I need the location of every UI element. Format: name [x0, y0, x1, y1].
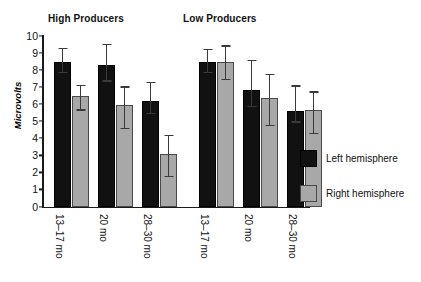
legend: Left hemisphereRight hemisphere — [300, 150, 404, 220]
error-bar-cap-upper — [76, 85, 85, 86]
error-bar-cap-upper — [146, 82, 155, 83]
y-tick-label: 6 — [32, 99, 38, 110]
y-tick-mark — [39, 189, 43, 190]
y-tick-mark — [39, 87, 43, 88]
x-tick-label: 28–30 mo — [142, 214, 153, 258]
error-bar-cap-lower — [247, 106, 256, 107]
error-bar-cap-lower — [102, 80, 111, 81]
plot-area: 012345678910 — [42, 35, 310, 208]
error-bar-cap-lower — [120, 128, 129, 129]
error-bar-line — [124, 86, 125, 128]
bar-left-hemisphere — [243, 90, 260, 207]
y-tick-label: 8 — [32, 65, 38, 76]
y-tick-label: 1 — [32, 184, 38, 195]
y-tick-mark — [39, 121, 43, 122]
error-bar-line — [251, 60, 252, 106]
error-bar-cap-lower — [146, 113, 155, 114]
error-bar-cap-lower — [203, 72, 212, 73]
error-bar-cap-upper — [309, 91, 318, 92]
y-tick-label: 4 — [32, 133, 38, 144]
x-tick-label: 20 mo — [98, 214, 109, 242]
x-tick-label: 13–17 mo — [199, 214, 210, 258]
y-tick-mark — [39, 155, 43, 156]
error-bar-line — [150, 82, 151, 113]
error-bar-line — [207, 49, 208, 72]
error-bar-line — [80, 85, 81, 110]
x-axis-line — [42, 207, 310, 209]
error-bar-cap-lower — [309, 133, 318, 134]
y-tick-mark — [39, 206, 43, 207]
y-tick-label: 7 — [32, 82, 38, 93]
error-bar-line — [106, 44, 107, 81]
y-tick-mark — [39, 138, 43, 139]
error-bar-line — [295, 85, 296, 121]
bar-left-hemisphere — [142, 101, 159, 207]
error-bar-cap-lower — [58, 72, 67, 73]
bar-right-hemisphere — [72, 96, 89, 207]
bar-left-hemisphere — [54, 62, 71, 207]
error-bar-line — [269, 74, 270, 125]
y-tick-label: 2 — [32, 167, 38, 178]
bar-right-hemisphere — [217, 62, 234, 207]
y-axis-label: Microvolts — [12, 71, 23, 141]
error-bar-cap-upper — [265, 74, 274, 75]
y-tick-label: 3 — [32, 150, 38, 161]
error-bar-cap-lower — [164, 176, 173, 177]
error-bar-cap-lower — [265, 125, 274, 126]
error-bar-cap-upper — [102, 44, 111, 45]
error-bar-cap-lower — [291, 121, 300, 122]
x-tick-label: 13–17 mo — [54, 214, 65, 258]
error-bar-line — [168, 135, 169, 176]
legend-item[interactable]: Right hemisphere — [300, 185, 404, 202]
y-tick-label: 0 — [32, 201, 38, 212]
error-bar-cap-upper — [164, 135, 173, 136]
error-bar-cap-upper — [247, 60, 256, 61]
error-bar-line — [313, 91, 314, 133]
y-tick-mark — [39, 35, 43, 36]
error-bar-cap-upper — [291, 85, 300, 86]
error-bar-line — [225, 45, 226, 78]
x-tick-label: 28–30 mo — [287, 214, 298, 258]
y-axis-line — [42, 35, 44, 208]
chart-root: High Producers Low Producers Microvolts … — [0, 0, 421, 282]
y-tick-mark — [39, 104, 43, 105]
x-tick-label: 20 mo — [243, 214, 254, 242]
error-bar-cap-upper — [58, 48, 67, 49]
group-title-high-producers: High Producers — [48, 13, 124, 24]
y-tick-label: 5 — [32, 116, 38, 127]
legend-label: Left hemisphere — [326, 153, 398, 164]
error-bar-cap-lower — [76, 109, 85, 110]
bar-left-hemisphere — [98, 65, 115, 206]
legend-label: Right hemisphere — [326, 188, 404, 199]
y-tick-mark — [39, 172, 43, 173]
error-bar-cap-upper — [120, 86, 129, 87]
error-bar-cap-upper — [221, 45, 230, 46]
y-tick-mark — [39, 52, 43, 53]
legend-item[interactable]: Left hemisphere — [300, 150, 404, 167]
legend-swatch-right — [300, 185, 317, 202]
error-bar-line — [62, 48, 63, 72]
y-tick-label: 9 — [32, 48, 38, 59]
legend-swatch-left — [300, 150, 317, 167]
y-tick-mark — [39, 70, 43, 71]
bar-left-hemisphere — [199, 62, 216, 207]
error-bar-cap-lower — [221, 79, 230, 80]
error-bar-cap-upper — [203, 49, 212, 50]
group-title-low-producers: Low Producers — [183, 13, 257, 24]
y-tick-label: 10 — [26, 31, 38, 42]
